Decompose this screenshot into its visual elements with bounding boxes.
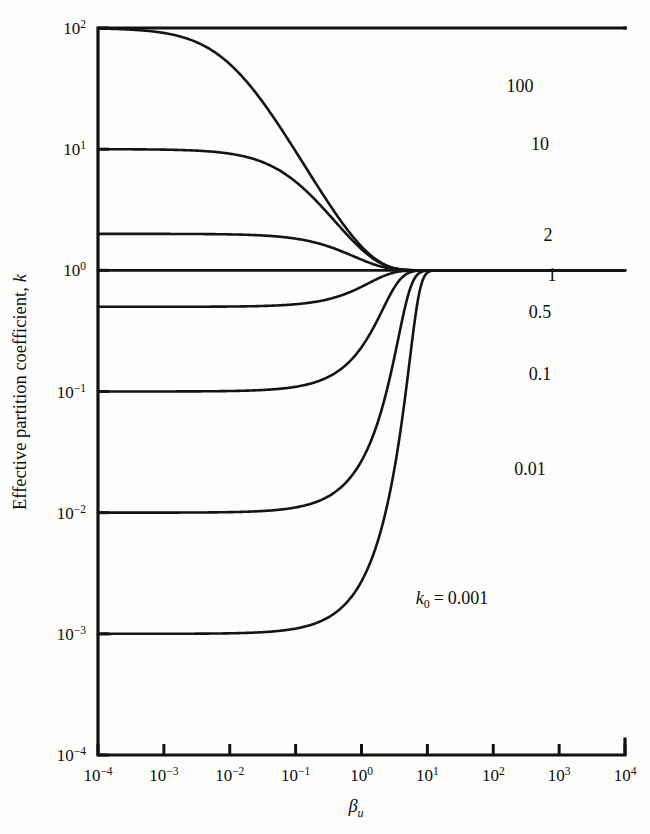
x-tick-label: 102 — [482, 765, 505, 785]
y-tick-label: 10−3 — [57, 624, 86, 644]
y-axis-title-text: Effective partition coefficient, — [10, 287, 30, 510]
svg-text:Effective partition coefficien: Effective partition coefficient,k — [10, 273, 30, 510]
x-tick-label: 100 — [350, 765, 373, 785]
x-axis-title: βu — [347, 796, 363, 820]
curve-label-k0-0.1: 0.1 — [529, 364, 552, 384]
y-tick-label: 10−2 — [57, 503, 86, 523]
y-axis-title: Effective partition coefficient,k — [10, 273, 30, 510]
curve-label-k0-1: 1 — [548, 265, 557, 285]
y-tick-label: 10−1 — [57, 382, 86, 402]
curve-label-k0-100: 100 — [507, 76, 534, 96]
curve-label-k0-10: 10 — [531, 134, 549, 154]
y-tick-label: 10−4 — [57, 745, 86, 765]
svg-text:βu: βu — [347, 796, 363, 820]
curve-labels: 10010210.50.10.01k0=0.001 — [416, 76, 557, 611]
curve-label-k0-0.5: 0.5 — [529, 302, 552, 322]
y-tick-label: 101 — [63, 139, 86, 159]
x-tick-label: 101 — [416, 765, 439, 785]
x-axis-title-subscript: u — [358, 806, 364, 820]
x-tick-label: 10−2 — [215, 765, 244, 785]
curve-k0-10 — [98, 149, 625, 270]
y-tick-labels: 10−410−310−210−1100101102 — [57, 18, 87, 765]
figure-container: 10−410−310−210−1100101102103104 10−410−3… — [0, 0, 650, 834]
y-axis-title-symbol: k — [10, 273, 30, 282]
y-tick-label: 100 — [63, 260, 86, 280]
chart-canvas: 10−410−310−210−1100101102103104 10−410−3… — [0, 0, 650, 834]
curve-label-k0-0.001: k0=0.001 — [416, 588, 489, 611]
y-tick-label: 102 — [63, 18, 86, 38]
x-tick-label: 10−4 — [83, 765, 112, 785]
x-tick-labels: 10−410−310−210−1100101102103104 — [83, 765, 636, 785]
curve-label-k0-0.01: 0.01 — [514, 459, 546, 479]
curve-k0-0.001 — [98, 270, 625, 634]
curves-group — [98, 29, 625, 634]
x-tick-label: 104 — [614, 765, 637, 785]
x-tick-label: 10−1 — [281, 765, 310, 785]
x-tick-label: 10−3 — [149, 765, 178, 785]
x-tick-label: 103 — [548, 765, 571, 785]
curve-label-k0-2: 2 — [544, 225, 553, 245]
